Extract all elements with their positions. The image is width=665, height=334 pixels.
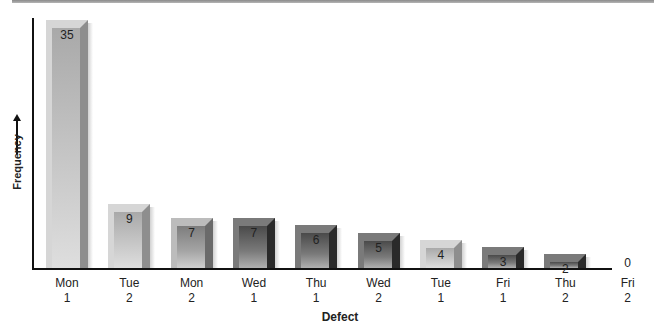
bar-value-label: 4 [420,248,462,262]
bar-value-label: 3 [482,255,524,269]
bar: 5 [358,233,400,268]
bar-value-label: 0 [607,256,649,270]
x-tick-label: Tue1 [416,276,466,306]
x-tick-label: Fri2 [603,276,653,306]
x-tick-label: Wed1 [229,276,279,306]
bar: 35 [46,20,88,268]
x-tick-label: Tue2 [104,276,154,306]
bar-value-label: 9 [108,212,150,226]
x-tick-label: Mon1 [42,276,92,306]
bar-shadow [400,236,405,268]
bar: 4 [420,240,462,268]
bar-value-label: 7 [233,226,275,240]
bar-face [46,20,88,268]
x-tick-label: Fri1 [478,276,528,306]
bar-shadow [586,257,591,268]
bar-value-label: 2 [544,262,586,276]
bar-value-label: 7 [171,226,213,240]
x-tick-label: Thu2 [540,276,590,306]
bar: 2 [544,254,586,268]
bar-shadow [524,250,529,268]
bar-shadow [150,207,155,268]
bar-value-label: 6 [295,233,337,247]
bar-value-label: 35 [46,28,88,42]
x-axis-title: Defect [300,310,380,324]
y-axis-label-group: Frequency [2,120,32,210]
bar: 7 [171,218,213,268]
bar-shadow [337,228,342,268]
x-axis [32,268,612,270]
bar-shadow [275,221,280,268]
x-tick-label: Wed2 [354,276,404,306]
bar-value-label: 5 [358,241,400,255]
x-tick-label: Thu1 [291,276,341,306]
bar-shadow [88,23,93,268]
bar: 6 [295,225,337,268]
bar: 7 [233,218,275,268]
bar: 3 [482,247,524,268]
x-tick-label: Mon2 [167,276,217,306]
y-axis-label: Frequency [11,117,23,207]
bar-shadow [462,243,467,268]
y-axis [32,18,34,270]
bar-shadow [213,221,218,268]
bar: 9 [108,204,150,268]
top-border [12,0,654,3]
